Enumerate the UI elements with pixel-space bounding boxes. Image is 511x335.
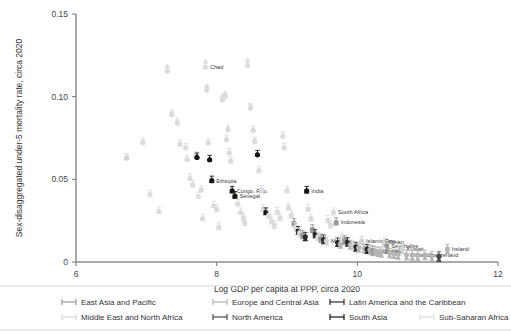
data-point [288,211,294,219]
data-point [184,155,190,162]
legend-label: East Asia and Pacific [81,298,156,307]
data-point [255,150,261,157]
x-tick-label: 8 [214,269,219,279]
y-tick-label: 0.05 [51,174,68,184]
legend-label: North America [232,313,283,322]
data-point [177,140,183,147]
data-point [248,103,254,111]
data-point [256,166,262,173]
data-point [224,135,230,142]
data-point [147,190,153,197]
y-tick-label: 0 [63,257,68,267]
point-label: Chad [210,64,223,70]
legend-item[interactable]: Middle East and North Africa [62,313,183,322]
data-point [235,199,241,206]
x-tick-label: 6 [74,269,79,279]
data-point [286,203,292,210]
data-point [222,90,228,99]
data-point [228,157,234,164]
data-point [165,64,171,74]
legend-label: Europe and Central Asia [232,298,319,307]
data-point [331,208,337,215]
male-rate-marker [224,135,230,140]
data-point [309,225,315,233]
chart-canvas: 00.050.100.15681012Log GDP per capita at… [0,0,511,335]
data-point [183,143,189,150]
legend-label: South Asia [349,313,388,322]
data-point [200,214,206,221]
data-point [250,126,256,133]
data-point [216,223,222,230]
data-point [195,192,201,199]
data-point [252,137,258,144]
female-rate-marker [165,69,170,74]
female-rate-marker [204,87,209,92]
legend-label: Middle East and North Africa [81,313,183,322]
male-rate-marker [140,138,146,143]
female-rate-marker [245,63,250,68]
x-tick-label: 12 [493,269,503,279]
legend-item[interactable]: Europe and Central Asia [213,298,319,307]
data-point [174,118,180,126]
legend-label: Latin America and the Caribbean [349,298,466,307]
data-point [308,214,314,222]
data-point [238,208,244,215]
point-label: Ethiopia [216,178,237,184]
point-label: Indonesia [341,219,366,225]
scatter-chart: 00.050.100.15681012Log GDP per capita at… [0,0,511,335]
male-rate-marker [245,57,251,62]
data-point [205,138,211,145]
male-rate-marker [165,64,171,69]
data-point [325,216,331,224]
point-label: Ireland [452,246,469,252]
data-point [444,244,450,253]
legend-item[interactable]: North America [213,313,283,322]
data-point [280,132,286,139]
legend-item[interactable]: Latin America and the Caribbean [330,298,466,307]
data-point [198,185,204,192]
data-point [274,208,280,215]
male-rate-marker [222,90,228,95]
data-point [359,237,365,246]
y-tick-label: 0.10 [51,92,68,102]
male-rate-marker [169,109,175,114]
data-point [203,59,209,70]
data-point [190,180,196,187]
data-point [140,138,146,145]
data-point [204,83,210,93]
data-point [169,109,175,117]
data-point [207,155,213,162]
legend-label: Sub-Saharan Africa [439,313,509,322]
point-label: India [311,188,324,194]
data-point [156,207,162,214]
data-point [124,154,130,161]
legend-item[interactable]: South Asia [330,313,388,322]
legend-item[interactable]: East Asia and Pacific [62,298,156,307]
data-point [229,186,235,193]
male-rate-marker [177,140,183,145]
data-point [209,176,215,183]
data-point [284,186,290,193]
data-point [259,185,265,192]
y-tick-label: 0.15 [51,9,68,19]
data-point [333,218,339,226]
data-point [304,186,310,193]
data-point [226,148,232,155]
male-rate-marker [252,137,258,142]
male-rate-marker [203,59,209,64]
x-tick-label: 10 [353,269,363,279]
data-point [305,204,311,211]
y-axis-title: Sex-disaggregated under-5 mortality rate… [14,39,24,238]
legend-item[interactable]: Sub-Saharan Africa [420,313,509,322]
data-point [281,143,287,150]
male-rate-marker [225,125,231,130]
data-point [245,57,251,68]
point-label: Senegal [239,193,260,199]
data-point [225,125,231,132]
female-rate-marker [203,65,208,70]
point-label: South Africa [338,209,369,215]
male-rate-marker [280,132,286,137]
